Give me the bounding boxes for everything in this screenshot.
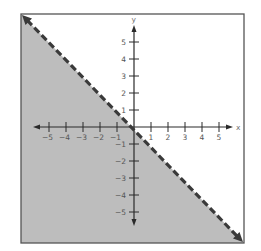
x-tick-label: 5 [217,133,222,142]
y-tick-label: −3 [115,174,126,183]
x-tick-label: 2 [166,133,171,142]
y-tick-label: −4 [115,191,126,200]
y-axis-up-arrow-icon [132,25,137,32]
y-tick-label: −2 [115,157,126,166]
x-tick-label: 1 [149,133,154,142]
x-axis-right-arrow-icon [226,125,233,130]
y-tick-label: −5 [115,208,126,217]
y-axis-label: y [132,15,137,24]
x-tick-label: −3 [76,133,87,142]
y-tick-label: 5 [121,38,126,47]
x-tick-label: −5 [42,133,53,142]
x-tick-label: 3 [183,133,188,142]
x-tick-label: 4 [200,133,205,142]
x-tick-label: −2 [93,133,104,142]
inequality-graph: −5−4−3−2−112345 x −5−4−3−2−112345 y [0,0,261,251]
y-tick-label: 2 [121,89,126,98]
y-tick-label: 1 [121,106,126,115]
y-tick-label: −1 [115,140,126,149]
x-axis-label: x [236,123,241,132]
y-tick-label: 3 [121,72,126,81]
y-tick-label: 4 [121,55,126,64]
x-tick-label: −4 [59,133,70,142]
